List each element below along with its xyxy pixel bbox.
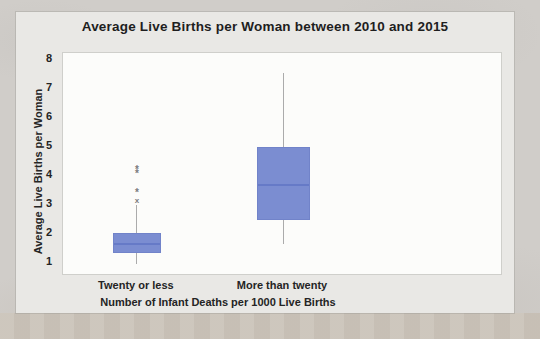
y-tick-label-5: 5 [46,139,52,151]
y-tick-label-3: 3 [46,197,52,209]
boxplot-chart: Average Live Births per Woman between 20… [16,12,514,313]
plot-area: x*** [62,52,502,275]
y-axis-tick-labels: 12345678 [16,52,58,275]
y-tick-label-2: 2 [46,226,52,238]
x-axis-title: Number of Infant Deaths per 1000 Live Bi… [16,296,420,308]
y-tick-label-8: 8 [46,52,52,64]
photo-bottom-strip [0,313,540,339]
outlier-marker-asterisk-twenty-or-less: * [135,164,139,174]
outlier-marker-x-twenty-or-less: x [135,197,139,205]
chart-title: Average Live Births per Woman between 20… [16,19,514,34]
median-line-twenty-or-less [114,243,160,245]
y-tick-label-6: 6 [46,110,52,122]
y-tick-label-7: 7 [46,81,52,93]
median-line-more-than-twenty [258,184,309,186]
outlier-marker-asterisk-twenty-or-less: * [135,188,139,198]
y-tick-label-4: 4 [46,168,52,180]
x-category-label-twenty-or-less: Twenty or less [98,279,174,291]
y-tick-label-1: 1 [46,255,52,267]
x-category-label-more-than-twenty: More than twenty [237,279,327,291]
